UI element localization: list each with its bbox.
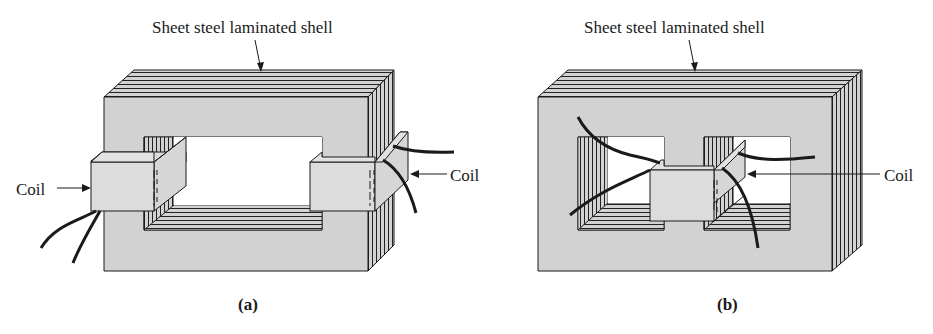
panel-a-core-type <box>41 40 454 271</box>
shell-label-b: Sheet steel laminated shell <box>584 19 765 36</box>
window-inner-bottom <box>144 205 322 230</box>
coil-label-left: Coil <box>16 181 45 198</box>
caption-b: (b) <box>717 296 738 313</box>
coil-label-center: Coil <box>884 167 913 184</box>
laminated-top-surface <box>104 70 394 97</box>
laminated-top-surface <box>538 70 862 97</box>
caption-a: (a) <box>238 296 258 313</box>
panel-b-shell-type <box>538 40 880 271</box>
laminated-side-surface <box>832 70 862 271</box>
coil-label-right: Coil <box>450 167 479 184</box>
shell-label-a: Sheet steel laminated shell <box>152 19 333 36</box>
